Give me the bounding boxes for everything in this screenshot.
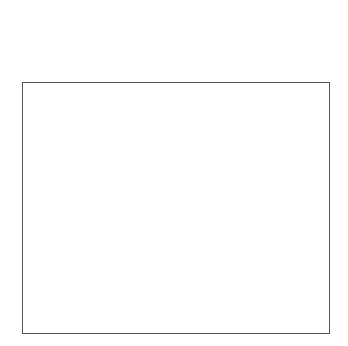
quilt-grid (22, 82, 330, 334)
